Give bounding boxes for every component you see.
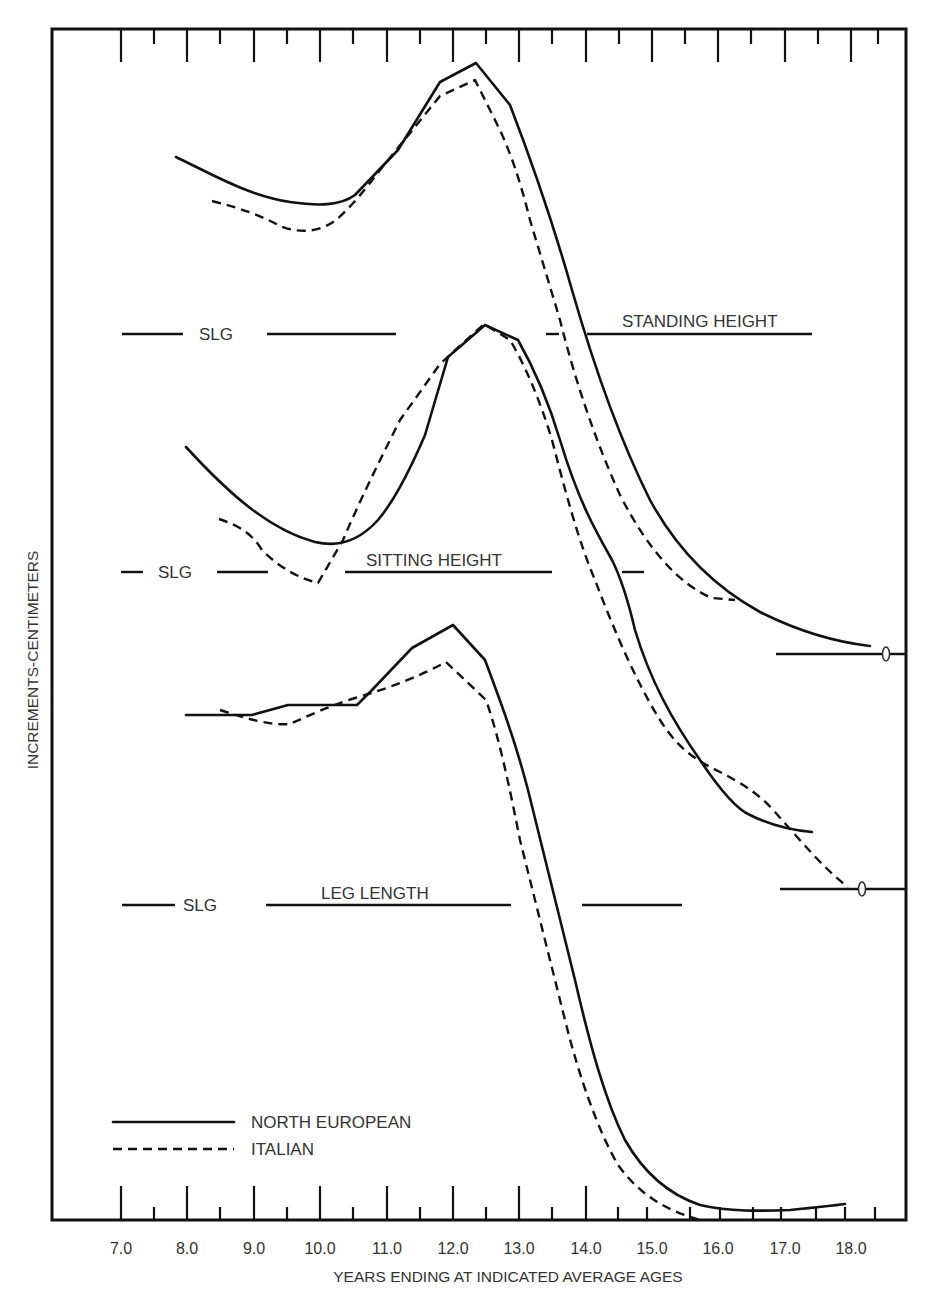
- x-axis-label: YEARS ENDING AT INDICATED AVERAGE AGES: [333, 1268, 682, 1285]
- plot-frame: [52, 29, 906, 1220]
- x-tick-label: 14.0: [570, 1240, 601, 1257]
- standing-zero-marker: [883, 647, 890, 661]
- growth-increment-chart: 7.0 8.0 9.0 10.0 11.0 12.0 13.0 14.0 15.…: [0, 0, 926, 1296]
- x-tick-label: 10.0: [304, 1240, 335, 1257]
- standing-italian-line: [212, 80, 735, 600]
- bottom-ticks: [121, 1186, 875, 1220]
- x-tick-label: 11.0: [372, 1240, 402, 1257]
- leg-slg-label: SLG: [183, 896, 217, 915]
- x-tick-label: 7.0: [110, 1240, 132, 1257]
- sitting-zero-marker: [859, 882, 866, 896]
- leg-italian-line: [220, 662, 700, 1220]
- x-tick-label: 18.0: [835, 1240, 866, 1257]
- leg-length-baseline: [122, 889, 906, 905]
- standing-height-label: STANDING HEIGHT: [622, 312, 778, 331]
- sitting-height-label: SITTING HEIGHT: [366, 551, 502, 570]
- sitting-italian-line: [219, 324, 848, 887]
- x-tick-label: 9.0: [243, 1240, 265, 1257]
- x-tick-label: 13.0: [503, 1240, 534, 1257]
- sitting-slg-label: SLG: [158, 563, 192, 582]
- x-tick-label: 16.0: [702, 1240, 733, 1257]
- sitting-north-european-line: [186, 325, 812, 832]
- legend-italian-label: ITALIAN: [251, 1140, 314, 1159]
- x-tick-labels: 7.0 8.0 9.0 10.0 11.0 12.0 13.0 14.0 15.…: [110, 1240, 867, 1257]
- standing-slg-label: SLG: [199, 325, 233, 344]
- top-ticks: [121, 29, 878, 62]
- legend: NORTH EUROPEAN ITALIAN: [113, 1113, 411, 1159]
- sitting-height-baseline: [121, 572, 906, 654]
- leg-length-label: LEG LENGTH: [321, 884, 429, 903]
- y-axis-label: INCREMENTS-CENTIMETERS: [24, 551, 41, 770]
- legend-north-european-label: NORTH EUROPEAN: [251, 1113, 411, 1132]
- x-tick-label: 12.0: [437, 1240, 468, 1257]
- x-tick-label: 8.0: [176, 1240, 198, 1257]
- standing-north-european-line: [176, 63, 870, 646]
- x-tick-label: 17.0: [769, 1240, 800, 1257]
- x-tick-label: 15.0: [636, 1240, 667, 1257]
